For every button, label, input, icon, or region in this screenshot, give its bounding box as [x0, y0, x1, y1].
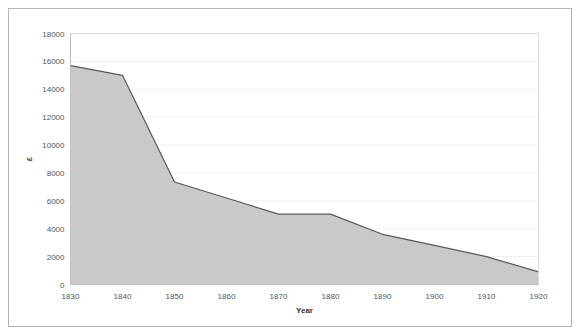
y-tick-label: 2000	[47, 253, 65, 262]
y-tick-label: 8000	[47, 169, 65, 178]
x-tick-label: 1900	[426, 292, 444, 301]
x-tick-label: 1870	[270, 292, 288, 301]
y-tick-label: 16000	[42, 57, 65, 66]
y-tick-label: 12000	[42, 113, 65, 122]
x-tick-label: 1840	[114, 292, 132, 301]
y-tick-label: 14000	[42, 85, 65, 94]
y-tick-label: 6000	[47, 197, 65, 206]
x-tick-label: 1880	[322, 292, 340, 301]
chart-figure: 0200040006000800010000120001400016000180…	[0, 0, 581, 336]
x-axis-title: Year	[296, 306, 313, 315]
x-tick-label: 1920	[530, 292, 548, 301]
y-tick-label: 0	[60, 281, 65, 290]
y-axis-title: £	[25, 156, 34, 161]
x-tick-label: 1830	[62, 292, 80, 301]
y-tick-label: 18000	[42, 30, 65, 39]
x-tick-label: 1910	[478, 292, 496, 301]
y-tick-label: 10000	[42, 141, 65, 150]
x-tick-label: 1850	[166, 292, 184, 301]
x-tick-label: 1890	[374, 292, 392, 301]
x-tick-label: 1860	[218, 292, 236, 301]
y-tick-label: 4000	[47, 225, 65, 234]
area-chart: 0200040006000800010000120001400016000180…	[0, 0, 581, 336]
